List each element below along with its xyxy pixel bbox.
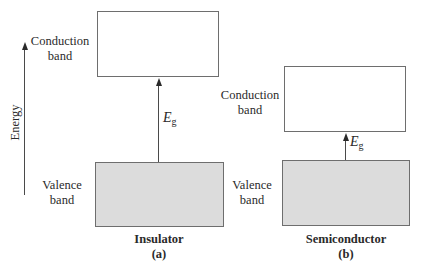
conduction-band-label-a: Conduction band — [28, 34, 92, 63]
band-gap-arrowhead-icon-b — [343, 133, 349, 141]
band-gap-arrowhead-icon-a — [156, 78, 162, 86]
energy-axis-label: Energy — [8, 103, 23, 143]
band-gap-label-b: Eg — [350, 134, 364, 151]
valence-band-label-b: Valence band — [224, 178, 280, 207]
valence-band-label-a: Valence band — [34, 178, 90, 207]
panel-sublabel-b: (b) — [286, 247, 406, 262]
band-gap-arrow-line-a — [158, 84, 159, 162]
energy-axis-arrowhead-icon — [22, 42, 28, 50]
panel-caption-a: Insulator (a) — [109, 232, 209, 262]
valence-band-box-a — [95, 162, 224, 227]
conduction-band-box-a — [97, 11, 219, 77]
conduction-band-box-b — [284, 66, 406, 132]
band-gap-arrow-line-b — [345, 139, 346, 160]
material-label-a: Insulator — [109, 232, 209, 247]
panel-sublabel-a: (a) — [109, 247, 209, 262]
conduction-band-label-b: Conduction band — [218, 88, 282, 117]
valence-band-box-b — [282, 160, 410, 226]
band-gap-label-a: Eg — [163, 110, 177, 127]
panel-caption-b: Semiconductor (b) — [286, 232, 406, 262]
energy-axis-line — [24, 48, 25, 195]
material-label-b: Semiconductor — [286, 232, 406, 247]
